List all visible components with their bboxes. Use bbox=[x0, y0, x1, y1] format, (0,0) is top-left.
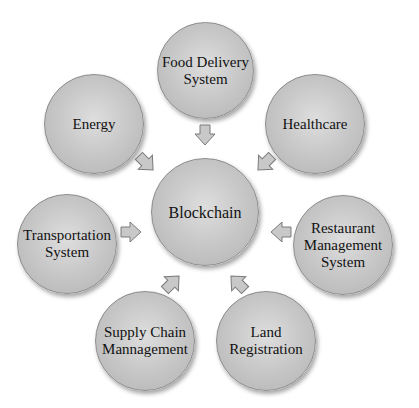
arrow-left-icon bbox=[270, 221, 292, 243]
node-supply-chain: Supply Chain Mannagement bbox=[95, 291, 195, 391]
node-transportation: Transportation System bbox=[17, 194, 117, 294]
node-energy: Energy bbox=[44, 74, 144, 174]
node-food-delivery: Food Delivery System bbox=[157, 22, 254, 119]
arrow-down-icon bbox=[194, 124, 216, 146]
node-restaurant-management: Restaurant Management System bbox=[293, 195, 393, 295]
node-label: Restaurant Management System bbox=[304, 220, 382, 271]
node-label: Healthcare bbox=[283, 116, 348, 133]
node-healthcare: Healthcare bbox=[265, 74, 365, 174]
blockchain-applications-diagram: Blockchain Food Delivery System Energy H… bbox=[0, 0, 419, 408]
node-land-registration: Land Registration bbox=[216, 291, 316, 391]
node-label: Supply Chain Mannagement bbox=[102, 324, 188, 358]
node-blockchain: Blockchain bbox=[151, 158, 259, 266]
arrow-right-icon bbox=[120, 221, 142, 243]
node-label: Food Delivery System bbox=[162, 54, 249, 88]
node-label: Energy bbox=[72, 116, 115, 133]
node-label: Transportation System bbox=[23, 227, 111, 261]
node-label: Blockchain bbox=[169, 204, 242, 221]
node-label: Land Registration bbox=[229, 324, 302, 358]
